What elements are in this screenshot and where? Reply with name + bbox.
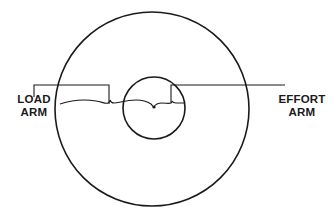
effort-arm-label: EFFORT ARM [276, 93, 328, 119]
load-arm-label: LOAD ARM [14, 93, 54, 119]
load-arm-label-line1: LOAD [14, 93, 54, 106]
wheel-circle [55, 12, 249, 206]
effort-arm-brace [154, 101, 185, 107]
effort-arm-label-line1: EFFORT [276, 93, 328, 106]
load-arm-label-line2: ARM [14, 106, 54, 119]
center-point [152, 105, 155, 108]
effort-arm-label-line2: ARM [276, 106, 328, 119]
load-arm-brace [60, 100, 154, 107]
effort-arm-bracket [171, 85, 285, 103]
